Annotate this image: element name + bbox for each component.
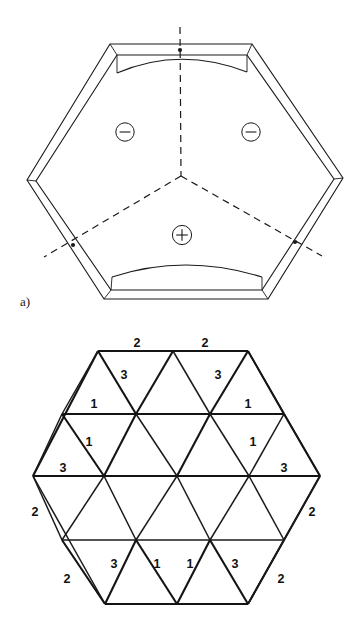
index-left-lower: 2: [32, 505, 39, 519]
index-top-left: 2: [134, 336, 141, 350]
index-bottom-center-right: 1: [187, 557, 194, 571]
domain-wall-lines: [44, 27, 322, 257]
index-right-row1: 1: [245, 397, 252, 411]
crystal-bevel-edges: [27, 44, 343, 299]
index-left-row1: 1: [91, 397, 98, 411]
panel-b-diagram: 2 2 3 3 1 1 1 1 3 3 2 2 3 1 1 3 2 2: [0, 320, 353, 638]
index-bottom-right-outer: 2: [278, 572, 285, 586]
index-top-right: 2: [202, 336, 209, 350]
bottom-facet-arc: [111, 265, 262, 290]
crystal-front-face: [36, 55, 334, 290]
top-facet-arc: [117, 55, 247, 73]
index-left-row2: 1: [86, 435, 93, 449]
index-left-mid: 3: [60, 461, 67, 475]
panel-a-diagram: [0, 0, 353, 320]
index-right-mid: 3: [281, 461, 288, 475]
panel-a-label: a): [20, 294, 30, 310]
index-right-lower: 2: [309, 505, 316, 519]
crystal-outer-contour: [27, 44, 343, 299]
index-right-row2: 1: [250, 435, 257, 449]
sign-marker-minus-left: [116, 123, 134, 141]
index-bottom-right-inner: 3: [232, 557, 239, 571]
index-bottom-left-outer: 2: [64, 572, 71, 586]
index-upper-right-inner: 3: [215, 368, 222, 382]
index-upper-left-inner: 3: [121, 368, 128, 382]
lattice-diagonals-up: [33, 351, 320, 604]
sign-marker-minus-right: [242, 123, 260, 141]
sign-marker-plus-bottom: [172, 225, 191, 244]
index-bottom-left-inner: 3: [111, 557, 118, 571]
index-bottom-center-left: 1: [154, 557, 161, 571]
figure-page: a): [0, 0, 353, 638]
